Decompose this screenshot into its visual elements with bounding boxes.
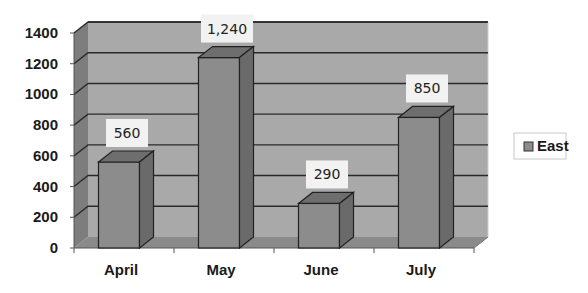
y-tick-label: 600	[33, 147, 58, 164]
bar-front	[399, 117, 440, 248]
bar-front	[99, 162, 140, 248]
bar-side	[440, 106, 454, 248]
data-label: 290	[314, 166, 341, 182]
y-tick-label: 400	[33, 178, 58, 195]
data-label: 1,240	[207, 21, 247, 37]
bar-front	[199, 58, 240, 248]
y-axis-labels: 0200400600800100012001400	[25, 24, 58, 256]
x-tick-label: May	[206, 261, 236, 278]
bar-july	[399, 106, 454, 248]
chart: 0200400600800100012001400 5601,240290850…	[0, 0, 588, 293]
legend-label: East	[537, 137, 569, 154]
y-tick-label: 200	[33, 208, 58, 225]
legend: East	[514, 133, 569, 159]
bar-front	[299, 203, 340, 248]
bar-april	[99, 151, 154, 248]
y-tick-label: 1400	[25, 24, 58, 41]
bar-june	[299, 192, 354, 248]
bar-side	[140, 151, 154, 248]
x-tick-label: June	[303, 261, 338, 278]
y-tick-label: 1200	[25, 55, 58, 72]
x-tick-label: July	[406, 261, 437, 278]
bar-may	[199, 47, 254, 248]
y-tick-label: 1000	[25, 85, 58, 102]
side-wall	[74, 22, 88, 248]
data-label: 560	[114, 125, 141, 141]
y-tick-label: 800	[33, 116, 58, 133]
legend-swatch	[524, 142, 533, 151]
bar-side	[240, 47, 254, 248]
x-axis-labels: AprilMayJuneJuly	[104, 261, 437, 278]
x-tick-label: April	[104, 261, 138, 278]
data-label: 850	[414, 80, 441, 96]
y-tick-label: 0	[50, 239, 58, 256]
